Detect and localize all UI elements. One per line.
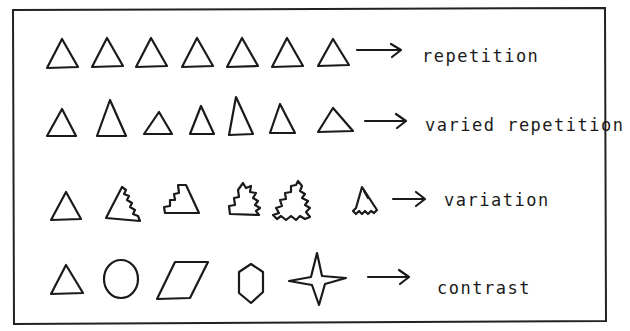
right-arrow-icon — [368, 270, 409, 284]
triangle-icon — [144, 112, 172, 134]
triangle-jagged-right-icon — [106, 187, 140, 221]
triangle-icon — [47, 109, 76, 136]
triangle-icon — [47, 39, 78, 68]
triangle-icon — [272, 38, 303, 67]
triangle-icon — [51, 265, 83, 294]
row-variation — [51, 181, 425, 221]
triangle-icon — [182, 38, 213, 67]
triangle-icon — [97, 100, 126, 136]
triangle-icon — [51, 192, 81, 220]
triangle-icon — [92, 38, 123, 67]
right-arrow-icon — [365, 114, 406, 128]
triangle-icon — [227, 38, 258, 67]
circle-icon — [104, 260, 138, 298]
four-point-star-icon — [289, 253, 346, 305]
label-variation: variation — [444, 192, 550, 209]
triangle-fully-jagged-icon — [273, 181, 310, 220]
triangle-icon — [318, 39, 349, 66]
right-arrow-icon — [357, 44, 401, 57]
triangle-stepped-jagged-icon — [229, 183, 260, 215]
label-contrast: contrast — [437, 280, 531, 297]
triangle-icon — [136, 38, 167, 67]
row-repetition — [47, 38, 401, 68]
row-varied-repetition — [47, 97, 406, 136]
label-repetition: repetition — [422, 48, 539, 65]
triangle-icon — [190, 106, 214, 134]
triangle-icon — [229, 97, 253, 135]
triangle-stepped-left-icon — [164, 185, 199, 213]
right-arrow-icon — [393, 192, 425, 206]
row-contrast — [51, 253, 409, 305]
triangle-icon — [270, 104, 295, 133]
hexagon-icon — [239, 264, 263, 303]
triangle-icon — [318, 108, 353, 132]
label-varied-repetition: varied repetition — [425, 117, 625, 134]
parallelogram-icon — [157, 262, 208, 299]
